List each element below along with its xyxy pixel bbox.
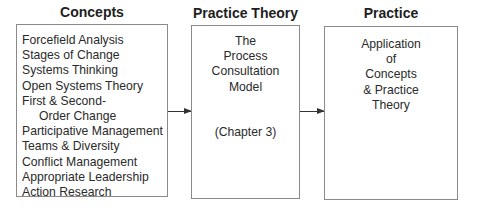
practice-title: Practice bbox=[324, 5, 458, 21]
practice-box: Application of Concepts & Practice Theor… bbox=[324, 26, 458, 200]
concept-item: Order Change bbox=[22, 109, 163, 124]
practice-line: of bbox=[325, 52, 457, 67]
practice-theory-box: The Process Consultation Model (Chapter … bbox=[191, 25, 300, 199]
concept-item: Participative Management bbox=[22, 124, 163, 139]
arrow-practice-theory-to-practice bbox=[300, 111, 324, 112]
practice-theory-title: Practice Theory bbox=[191, 5, 300, 21]
practice-line: Application bbox=[325, 37, 457, 52]
practice-theory-text: The Process Consultation Model bbox=[192, 34, 299, 95]
concepts-list: Forcefield Analysis Stages of Change Sys… bbox=[22, 33, 163, 200]
concept-item: Open Systems Theory bbox=[22, 79, 163, 94]
concept-item: Appropriate Leadership bbox=[22, 170, 163, 185]
practice-theory-line: Consultation bbox=[192, 64, 299, 79]
concepts-title: Concepts bbox=[16, 4, 168, 20]
concept-item: Stages of Change bbox=[22, 48, 163, 63]
practice-line: Theory bbox=[325, 98, 457, 113]
practice-line: & Practice bbox=[325, 83, 457, 98]
concept-item: Systems Thinking bbox=[22, 63, 163, 78]
concept-item: Teams & Diversity bbox=[22, 139, 163, 154]
practice-theory-line: The bbox=[192, 34, 299, 49]
practice-theory-line: Model bbox=[192, 80, 299, 95]
concept-item: Action Research bbox=[22, 185, 163, 200]
practice-line: Concepts bbox=[325, 67, 457, 82]
concept-item: Conflict Management bbox=[22, 155, 163, 170]
arrow-concepts-to-practice-theory bbox=[168, 111, 191, 112]
chapter-note: (Chapter 3) bbox=[192, 125, 299, 140]
practice-theory-line: Process bbox=[192, 49, 299, 64]
concept-item: Forcefield Analysis bbox=[22, 33, 163, 48]
practice-text: Application of Concepts & Practice Theor… bbox=[325, 37, 457, 113]
concept-item: First & Second- bbox=[22, 94, 163, 109]
concepts-box: Forcefield Analysis Stages of Change Sys… bbox=[16, 24, 168, 197]
